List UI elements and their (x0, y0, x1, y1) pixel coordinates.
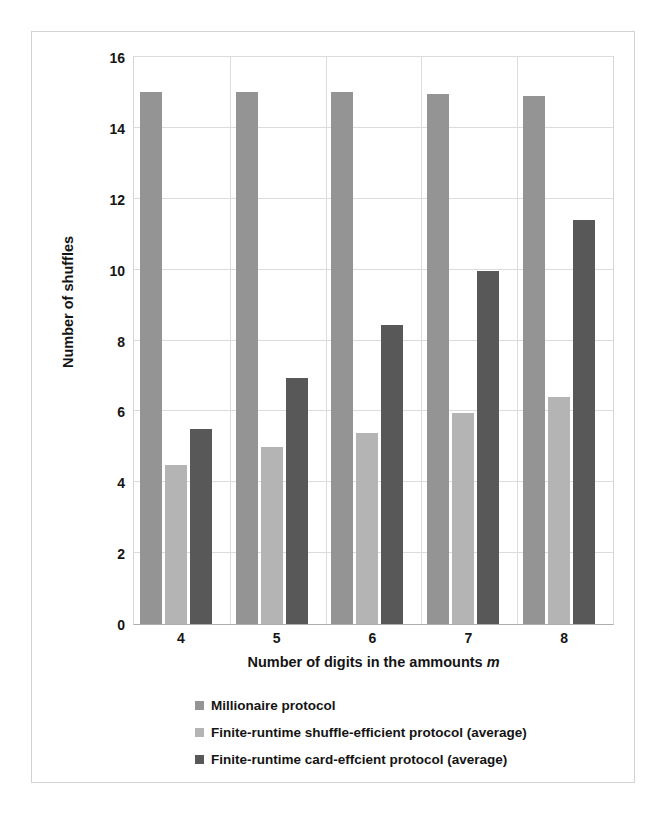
y-axis-tick-label: 10 (85, 264, 125, 278)
plot-area (133, 56, 614, 625)
bar (356, 433, 378, 624)
bar (236, 92, 258, 624)
legend-item-label: Finite-runtime card-effcient protocol (a… (211, 752, 507, 767)
bar (427, 94, 449, 624)
y-axis-tick-label: 14 (85, 122, 125, 136)
y-axis-tick-label: 6 (85, 405, 125, 419)
y-axis-tick-labels: 0246810121416 (77, 56, 125, 625)
y-axis-tick-label: 2 (85, 547, 125, 561)
x-axis-tick-label: 6 (343, 630, 403, 646)
bar (381, 325, 403, 624)
y-axis-tick-label: 0 (85, 618, 125, 632)
bar (573, 220, 595, 624)
legend-item[interactable]: Finite-runtime card-effcient protocol (a… (133, 746, 614, 773)
bar (190, 429, 212, 624)
bar-group (230, 57, 326, 624)
bar (548, 397, 570, 624)
y-axis-title: Number of shuffles (60, 192, 76, 412)
y-axis-tick-label: 4 (85, 476, 125, 490)
bar (140, 92, 162, 624)
x-axis-tick-label: 5 (247, 630, 307, 646)
y-axis-tick-label: 16 (85, 51, 125, 65)
legend-item-label: Millionaire protocol (211, 698, 336, 713)
x-axis-title-variable: m (487, 654, 500, 670)
bar (165, 465, 187, 624)
legend-item-label: Finite-runtime shuffle-efficient protoco… (211, 725, 527, 740)
x-axis-title-text: Number of digits in the ammounts (247, 654, 486, 670)
bar-group (134, 57, 230, 624)
bar (331, 92, 353, 624)
x-axis-title: Number of digits in the ammounts m (133, 654, 614, 670)
y-axis-tick-label: 8 (85, 335, 125, 349)
legend-item[interactable]: Finite-runtime shuffle-efficient protoco… (133, 719, 614, 746)
legend-swatch-icon (195, 728, 204, 737)
chart-container: Number of shuffles 0246810121416 45678 N… (31, 31, 635, 783)
x-axis-tick-label: 8 (534, 630, 594, 646)
bar (261, 447, 283, 624)
bar-group (421, 57, 517, 624)
legend-item[interactable]: Millionaire protocol (133, 692, 614, 719)
legend-swatch-icon (195, 701, 204, 710)
x-axis-tick-labels: 45678 (133, 630, 614, 652)
y-axis-tick-label: 12 (85, 193, 125, 207)
bar-group (517, 57, 613, 624)
bar (523, 96, 545, 624)
x-axis-tick-label: 7 (438, 630, 498, 646)
x-axis-tick-label: 4 (151, 630, 211, 646)
bar (452, 413, 474, 624)
legend: Millionaire protocolFinite-runtime shuff… (133, 692, 614, 773)
bar (286, 378, 308, 624)
legend-swatch-icon (195, 755, 204, 764)
bar (477, 271, 499, 624)
bar-group (326, 57, 422, 624)
